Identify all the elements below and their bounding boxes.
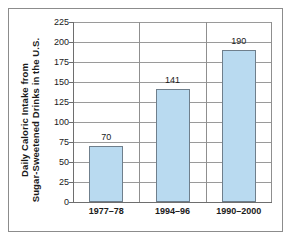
y-tick-label: 50 [59, 157, 69, 167]
bar-value-label: 70 [101, 132, 111, 142]
y-tick-label: 200 [54, 37, 69, 47]
y-tick-label: 100 [54, 117, 69, 127]
y-tick-label: 150 [54, 77, 69, 87]
bar [89, 146, 123, 202]
x-axis-category-labels: 1977–781994–961990–2000 [73, 206, 272, 222]
y-axis-tick-labels: 0255075100125150175200225 [42, 22, 72, 202]
y-tick-label: 125 [54, 97, 69, 107]
category-separator [139, 22, 140, 202]
y-tick-label: 25 [59, 177, 69, 187]
chart-figure: Daily Caloric Intake from Sugar-Sweetene… [0, 0, 291, 240]
bar [222, 50, 256, 202]
y-tick-label: 75 [59, 137, 69, 147]
x-axis-line [73, 202, 272, 203]
category-separator [206, 22, 207, 202]
y-tick-label: 175 [54, 57, 69, 67]
category-separator [73, 22, 74, 202]
bar-value-label: 141 [165, 75, 180, 85]
x-category-label: 1977–78 [89, 206, 124, 216]
y-tick-label: 225 [54, 17, 69, 27]
x-category-label: 1990–2000 [216, 206, 261, 216]
category-separator [271, 22, 272, 202]
gridline [73, 22, 272, 23]
y-axis-title-line2: Sugar-Sweetened Drinks in the U.S. [31, 38, 42, 202]
plot-area [73, 22, 272, 202]
x-category-label: 1994–96 [155, 206, 190, 216]
y-tick-mark [69, 202, 74, 203]
bar [156, 89, 190, 202]
bar-value-label: 190 [231, 36, 246, 46]
